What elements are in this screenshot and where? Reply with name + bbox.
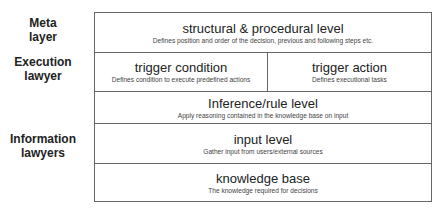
level-description: Defines executional tasks: [312, 75, 387, 84]
layer-stack: structural & procedural level Defines po…: [94, 12, 432, 202]
execution-layer-label: Execution lawyer: [0, 55, 86, 83]
structural-procedural-level: structural & procedural level Defines po…: [95, 13, 431, 53]
level-description: Defines position and order of the decisi…: [153, 36, 373, 45]
information-layers-label-line1: Information: [0, 132, 86, 146]
level-description: The knowledge required for decisions: [208, 186, 318, 195]
trigger-condition-cell: trigger condition Defines condition to e…: [95, 53, 268, 91]
meta-layer-label: Meta layer: [0, 16, 86, 44]
information-layers-label-line2: lawyers: [0, 146, 86, 160]
level-title: structural & procedural level: [182, 21, 343, 36]
structural-procedural-cell: structural & procedural level Defines po…: [95, 13, 431, 52]
level-title: input level: [234, 132, 293, 147]
execution-layer-label-line2: lawyer: [0, 69, 86, 83]
level-title: Inference/rule level: [208, 96, 318, 111]
level-title: knowledge base: [216, 171, 310, 186]
inference-rule-level: Inference/rule level Apply reasoning con…: [95, 92, 431, 124]
meta-layer-label-line1: Meta: [0, 16, 86, 30]
level-description: Defines condition to execute predefined …: [112, 75, 251, 84]
execution-layer-label-line1: Execution: [0, 55, 86, 69]
meta-layer-label-line2: layer: [0, 30, 86, 44]
inference-rule-cell: Inference/rule level Apply reasoning con…: [95, 92, 431, 123]
input-level: input level Gather input from users/exte…: [95, 124, 431, 164]
level-title: trigger action: [312, 60, 387, 75]
information-layers-label: Information lawyers: [0, 132, 86, 160]
level-title: trigger condition: [135, 60, 228, 75]
level-description: Gather input from users/external sources: [203, 147, 322, 156]
trigger-action-cell: trigger action Defines executional tasks: [268, 53, 431, 91]
execution-row: trigger condition Defines condition to e…: [95, 53, 431, 92]
knowledge-base-cell: knowledge base The knowledge required fo…: [95, 164, 431, 201]
input-level-cell: input level Gather input from users/exte…: [95, 124, 431, 163]
level-description: Apply reasoning contained in the knowled…: [178, 111, 348, 120]
knowledge-base-level: knowledge base The knowledge required fo…: [95, 164, 431, 201]
